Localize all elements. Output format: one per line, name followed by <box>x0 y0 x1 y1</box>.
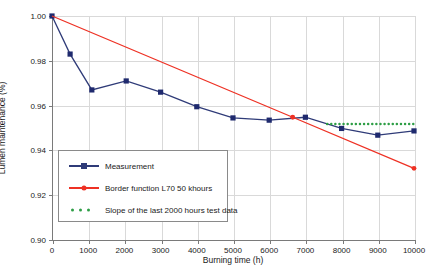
x-tick <box>234 240 235 244</box>
y-tick <box>49 16 53 17</box>
x-tick <box>270 240 271 244</box>
x-tick <box>53 240 54 244</box>
x-tick-label: 8000 <box>333 246 351 255</box>
legend-label: Border function L70 50 khours <box>105 184 212 193</box>
x-tick <box>379 240 380 244</box>
lumen-maintenance-chart: Lumen maintenance (%) Burning time (h) 0… <box>0 0 439 278</box>
x-tick-label: 0 <box>50 246 54 255</box>
legend-item: Measurement <box>59 157 227 175</box>
y-tick-label: 0.94 <box>30 146 46 155</box>
x-tick-label: 6000 <box>260 246 278 255</box>
y-tick <box>49 150 53 151</box>
y-tick-label: 1.00 <box>30 12 46 21</box>
x-tick <box>89 240 90 244</box>
x-tick-label: 4000 <box>188 246 206 255</box>
legend-dot-icon <box>87 209 90 212</box>
y-tick <box>49 106 53 107</box>
gridline-vertical <box>379 16 380 240</box>
legend-marker-icon <box>82 186 87 191</box>
y-tick <box>49 61 53 62</box>
x-tick <box>198 240 199 244</box>
legend-dot-icon <box>71 209 74 212</box>
x-tick-label: 7000 <box>296 246 314 255</box>
x-tick-label: 2000 <box>115 246 133 255</box>
x-tick <box>125 240 126 244</box>
legend-dot-icon <box>79 209 82 212</box>
x-tick-label: 3000 <box>152 246 170 255</box>
x-axis-title: Burning time (h) <box>203 255 263 265</box>
legend-symbol-icon <box>67 182 101 194</box>
legend-label: Slope of the last 2000 hours test data <box>105 206 238 215</box>
x-tick-label: 10000 <box>403 246 425 255</box>
gridline-vertical <box>343 16 344 240</box>
y-tick-label: 0.90 <box>30 236 46 245</box>
legend-label: Measurement <box>105 162 154 171</box>
y-tick-label: 0.96 <box>30 101 46 110</box>
gridline-vertical <box>306 16 307 240</box>
x-tick <box>306 240 307 244</box>
legend-marker-icon <box>81 163 87 169</box>
gridline-vertical <box>270 16 271 240</box>
legend-item: Slope of the last 2000 hours test data <box>59 201 227 219</box>
legend-symbol-icon <box>67 160 101 172</box>
x-tick-label: 5000 <box>224 246 242 255</box>
x-tick <box>343 240 344 244</box>
x-tick <box>415 240 416 244</box>
x-tick <box>162 240 163 244</box>
gridline-vertical <box>415 16 416 240</box>
y-tick <box>49 195 53 196</box>
y-axis-title: Lumen maintenance (%) <box>0 82 7 175</box>
y-tick-label: 0.92 <box>30 191 46 200</box>
y-tick-label: 0.98 <box>30 56 46 65</box>
x-tick-label: 1000 <box>79 246 97 255</box>
legend-item: Border function L70 50 khours <box>59 179 227 197</box>
x-tick-label: 9000 <box>369 246 387 255</box>
legend-symbol-icon <box>67 204 101 216</box>
chart-legend: MeasurementBorder function L70 50 khours… <box>58 150 228 222</box>
